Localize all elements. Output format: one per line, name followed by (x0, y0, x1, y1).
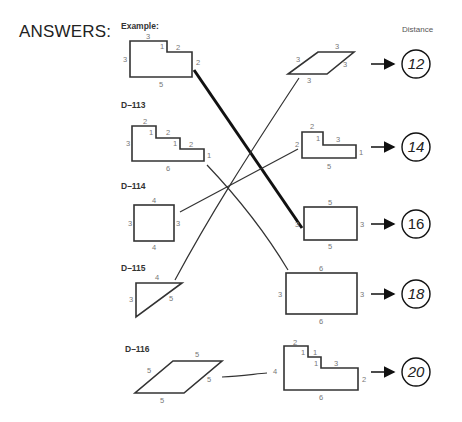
svg-text:3: 3 (128, 219, 132, 228)
shape-right-18: 6 3 6 3 (278, 264, 364, 326)
distance-18: 18 (408, 285, 425, 302)
svg-text:4: 4 (273, 367, 277, 376)
svg-text:5: 5 (169, 294, 173, 303)
shape-d116: 5 5 5 5 (135, 350, 222, 405)
svg-text:2: 2 (176, 43, 180, 52)
svg-text:2: 2 (166, 128, 170, 137)
svg-text:4: 4 (152, 196, 156, 205)
svg-text:2: 2 (295, 140, 299, 149)
svg-text:3: 3 (126, 139, 130, 148)
svg-text:2: 2 (293, 338, 297, 347)
line-example-to-16 (194, 70, 302, 228)
svg-text:2: 2 (310, 122, 314, 131)
svg-text:5: 5 (328, 198, 332, 207)
shape-right-12: 3 3 3 3 (288, 42, 354, 85)
svg-text:2: 2 (189, 140, 193, 149)
svg-text:6: 6 (319, 393, 323, 402)
svg-text:5: 5 (159, 80, 163, 89)
shape-right-14: 2 1 3 1 5 2 (295, 122, 363, 171)
svg-text:4: 4 (155, 273, 159, 282)
distance-16: 16 (408, 215, 425, 232)
distance-20: 20 (407, 363, 425, 380)
svg-text:6: 6 (166, 164, 170, 173)
svg-text:2: 2 (362, 375, 366, 384)
svg-text:3: 3 (295, 220, 299, 229)
svg-text:3: 3 (129, 295, 133, 304)
svg-text:1: 1 (316, 134, 320, 143)
svg-text:3: 3 (336, 135, 340, 144)
svg-text:5: 5 (207, 375, 211, 384)
svg-text:6: 6 (319, 317, 323, 326)
svg-text:5: 5 (147, 366, 151, 375)
svg-text:5: 5 (327, 162, 331, 171)
svg-text:6: 6 (319, 264, 323, 273)
connecting-lines (175, 70, 302, 377)
svg-text:3: 3 (343, 60, 347, 69)
svg-text:3: 3 (296, 55, 300, 64)
svg-text:1: 1 (313, 348, 317, 357)
arrows (371, 64, 394, 372)
svg-text:1: 1 (359, 148, 363, 157)
shape-right-20: 2 1 1 1 3 2 6 4 (273, 338, 366, 402)
svg-text:1: 1 (314, 359, 318, 368)
svg-text:5: 5 (160, 396, 164, 405)
svg-text:1: 1 (173, 139, 177, 148)
svg-text:1: 1 (160, 42, 164, 51)
line-d113-to-18 (207, 165, 288, 270)
diagram-canvas: 3 1 2 2 5 3 2 1 2 1 2 1 6 3 4 3 4 3 4 5 … (0, 0, 462, 422)
svg-text:3: 3 (307, 76, 311, 85)
svg-text:1: 1 (207, 151, 211, 160)
shape-right-16: 5 3 5 3 (295, 198, 364, 251)
svg-text:3: 3 (360, 290, 364, 299)
svg-text:3: 3 (278, 290, 282, 299)
line-d114-to-14 (180, 149, 298, 212)
svg-text:5: 5 (328, 242, 332, 251)
svg-text:1: 1 (149, 128, 153, 137)
svg-text:2: 2 (143, 117, 147, 126)
shape-d114: 4 3 4 3 (128, 196, 180, 252)
svg-text:3: 3 (360, 220, 364, 229)
svg-text:2: 2 (196, 58, 200, 67)
line-d116-to-20 (222, 373, 267, 377)
line-d115-to-12 (175, 78, 299, 280)
distance-answers: 12 14 16 18 20 (402, 50, 430, 386)
svg-text:3: 3 (334, 359, 338, 368)
distance-12: 12 (408, 55, 425, 72)
shape-d113: 2 1 2 1 2 1 6 3 (126, 117, 211, 173)
svg-text:3: 3 (123, 55, 127, 64)
svg-text:3: 3 (176, 219, 180, 228)
svg-text:3: 3 (146, 32, 150, 41)
svg-text:5: 5 (195, 350, 199, 359)
shape-d115: 4 5 3 (129, 273, 182, 317)
svg-text:1: 1 (301, 348, 305, 357)
distance-14: 14 (408, 138, 425, 155)
svg-text:3: 3 (335, 42, 339, 51)
svg-text:4: 4 (152, 243, 156, 252)
shape-example: 3 1 2 2 5 3 (123, 32, 200, 89)
